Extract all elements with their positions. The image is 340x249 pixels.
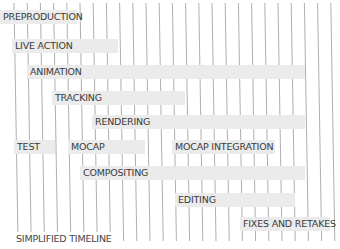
task-label: MOCAP xyxy=(71,140,105,154)
task-label: MOCAP INTEGRATION xyxy=(175,140,273,154)
task-label: COMPOSITING xyxy=(83,166,148,180)
task-label: FIXES AND RETAKES xyxy=(243,217,336,231)
chart-title: SIMPLIFIED TIMELINE xyxy=(16,232,116,246)
grid-line xyxy=(331,3,335,241)
grid-line xyxy=(318,3,322,241)
task-label: PREPRODUCTION xyxy=(3,10,83,24)
task-label: LIVE ACTION xyxy=(15,39,73,53)
task-label: ANIMATION xyxy=(30,65,82,79)
grid-line xyxy=(304,3,308,241)
task-label: TEST xyxy=(17,140,40,154)
task-label: TRACKING xyxy=(55,91,102,105)
task-label: RENDERING xyxy=(95,115,150,129)
task-label: EDITING xyxy=(178,193,216,207)
